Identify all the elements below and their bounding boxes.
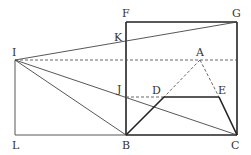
dashed-ae: [200, 60, 219, 97]
label-b: B: [122, 139, 130, 152]
label-d: D: [152, 84, 161, 97]
segment-ib: [15, 60, 126, 135]
geometry-diagram: F G K I A J D E L B C: [0, 0, 251, 155]
label-a: A: [195, 46, 205, 59]
segment-bd: [126, 97, 164, 135]
label-f: F: [122, 7, 130, 20]
label-i: I: [12, 46, 16, 59]
dashed-ad: [164, 60, 200, 97]
label-l: L: [12, 139, 20, 152]
label-c: C: [231, 139, 239, 152]
label-g: G: [232, 7, 241, 20]
segment-ec: [219, 97, 237, 135]
label-e: E: [218, 84, 226, 97]
label-k: K: [114, 31, 123, 44]
label-j: J: [116, 83, 121, 96]
